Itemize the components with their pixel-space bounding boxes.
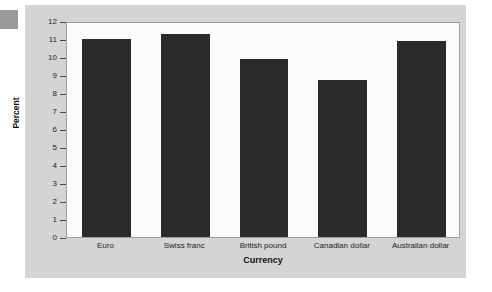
y-axis-tick-label: 12	[48, 16, 57, 27]
y-axis-tick-label: 4	[53, 160, 57, 171]
x-axis-category-label: Canadian dollar	[302, 241, 381, 250]
y-axis-title: Percent	[11, 73, 21, 153]
y-axis-tick-label: 10	[48, 52, 57, 63]
bar	[397, 41, 446, 237]
bars-layer	[67, 23, 459, 237]
y-axis-tick-label: 7	[53, 106, 57, 117]
x-axis-title: Currency	[66, 255, 460, 265]
y-axis-tick-label: 11	[49, 34, 57, 45]
x-axis-category-label: British pound	[224, 241, 303, 250]
corner-marker	[0, 10, 18, 29]
x-axis-labels: EuroSwiss francBritish poundCanadian dol…	[66, 241, 460, 255]
plot-area	[66, 22, 460, 238]
y-axis-tick-label: 1	[53, 214, 57, 225]
y-axis-tick-label: 0	[53, 232, 57, 243]
chart-figure-panel: 1211109876543210 Percent EuroSwiss franc…	[25, 5, 466, 278]
y-axis: 1211109876543210	[25, 5, 66, 222]
x-axis-category-label: Euro	[66, 241, 145, 250]
bar	[318, 80, 367, 237]
y-axis-tick-label: 5	[53, 142, 57, 153]
y-axis-tick-label: 6	[53, 124, 57, 135]
y-axis-tick-mark	[60, 238, 66, 239]
y-axis-tick-label: 8	[53, 88, 57, 99]
bar	[161, 34, 210, 237]
y-axis-tick-label: 2	[53, 196, 57, 207]
x-axis-category-label: Australian dollar	[381, 241, 460, 250]
bar	[240, 59, 289, 237]
bar	[82, 39, 131, 237]
x-axis-category-label: Swiss franc	[145, 241, 224, 250]
y-axis-tick-label: 9	[53, 70, 57, 81]
y-axis-tick-label: 3	[53, 178, 57, 189]
